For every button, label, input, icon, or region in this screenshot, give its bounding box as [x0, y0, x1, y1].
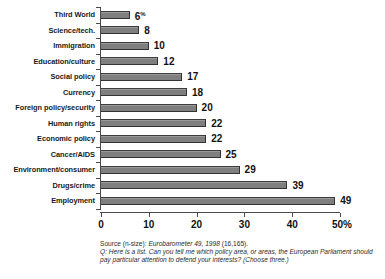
- bar: [101, 119, 206, 127]
- category-label: Employment: [0, 193, 95, 209]
- bar-row: Currency18: [0, 85, 385, 101]
- caption-source-title: Eurobarometer 49, 1998: [148, 240, 219, 247]
- category-label: Education/culture: [0, 54, 95, 70]
- caption-question-prefix: Q:: [100, 248, 109, 255]
- chart-caption: Source (n-size): Eurobarometer 49, 1998 …: [100, 240, 382, 265]
- y-axis-tick: [96, 23, 100, 24]
- bar-row: Education/culture12: [0, 54, 385, 70]
- y-axis-tick: [96, 209, 100, 210]
- bar-row: Cancer/AIDS25: [0, 147, 385, 163]
- value-label: 10: [154, 38, 165, 54]
- bar: [101, 166, 240, 174]
- x-axis-tick: [149, 213, 150, 217]
- value-label: 49: [340, 193, 351, 209]
- y-axis-tick: [96, 7, 100, 8]
- caption-question-line: Q: Here is a list. Can you tell me which…: [100, 248, 382, 264]
- bar: [101, 181, 287, 189]
- bar-row: Immigration10: [0, 38, 385, 54]
- percent-sign: %: [140, 11, 145, 17]
- category-label: Cancer/AIDS: [0, 147, 95, 163]
- y-axis-tick: [96, 38, 100, 39]
- bar-row: Human rights22: [0, 116, 385, 132]
- value-label: 39: [292, 178, 303, 194]
- bar: [101, 26, 139, 34]
- caption-source-prefix: Source (n-size):: [100, 240, 148, 247]
- category-label: Currency: [0, 85, 95, 101]
- category-label: Economic policy: [0, 131, 95, 147]
- y-axis-tick: [96, 69, 100, 70]
- bar-row: Economic policy22: [0, 131, 385, 147]
- value-label: 17: [187, 69, 198, 85]
- bar: [101, 150, 221, 158]
- value-label: 22: [211, 131, 222, 147]
- caption-question-text: Here is a list. Can you tell me which po…: [100, 248, 373, 263]
- bar-row: Foreign policy/security20: [0, 100, 385, 116]
- bar: [101, 104, 197, 112]
- bar: [101, 197, 335, 205]
- x-axis-tick-label: 10: [143, 219, 154, 230]
- y-axis-tick: [96, 162, 100, 163]
- bar: [101, 42, 149, 50]
- x-axis-tick: [292, 213, 293, 217]
- category-label: Immigration: [0, 38, 95, 54]
- x-axis-tick: [244, 213, 245, 217]
- value-label: 25: [226, 147, 237, 163]
- x-axis-tick: [340, 213, 341, 217]
- y-axis-tick: [96, 193, 100, 194]
- x-axis-tick-label: 20: [191, 219, 202, 230]
- y-axis-tick: [96, 54, 100, 55]
- plot-area: Third World6%Science/tech.8Immigration10…: [0, 7, 385, 212]
- y-axis-tick: [96, 85, 100, 86]
- y-axis-tick: [96, 116, 100, 117]
- value-label: 6%: [135, 7, 146, 23]
- bar: [101, 73, 182, 81]
- category-label: Social policy: [0, 69, 95, 85]
- category-label: Foreign policy/security: [0, 100, 95, 116]
- bar: [101, 11, 130, 19]
- bar: [101, 135, 206, 143]
- category-label: Science/tech.: [0, 23, 95, 39]
- bar: [101, 88, 187, 96]
- value-label: 29: [245, 162, 256, 178]
- bar: [101, 57, 158, 65]
- x-axis-tick: [197, 213, 198, 217]
- y-axis-tick: [96, 131, 100, 132]
- y-axis-tick: [96, 100, 100, 101]
- bar-row: Employment49: [0, 193, 385, 209]
- caption-source-suffix: (16,165).: [220, 240, 248, 247]
- y-axis-line: [100, 7, 101, 210]
- x-axis-tick: [101, 213, 102, 217]
- x-axis-tick-label: 30: [239, 219, 250, 230]
- y-axis-tick: [96, 147, 100, 148]
- category-label: Human rights: [0, 116, 95, 132]
- axis-percent-sign: %: [343, 219, 352, 230]
- x-axis-tick-label: 0: [98, 219, 104, 230]
- category-label: Drugs/crime: [0, 178, 95, 194]
- caption-source-line: Source (n-size): Eurobarometer 49, 1998 …: [100, 240, 382, 248]
- category-label: Environment/consumer: [0, 162, 95, 178]
- bar-row: Third World6%: [0, 7, 385, 23]
- value-label: 8: [144, 23, 150, 39]
- value-label: 22: [211, 116, 222, 132]
- x-axis-tick-label: 50%: [332, 219, 352, 230]
- x-axis-line: [100, 212, 340, 213]
- category-label: Third World: [0, 7, 95, 23]
- x-axis-tick-label: 40: [287, 219, 298, 230]
- y-axis-tick: [96, 178, 100, 179]
- bar-row: Social policy17: [0, 69, 385, 85]
- bar-row: Science/tech.8: [0, 23, 385, 39]
- value-label: 12: [163, 54, 174, 70]
- value-label: 20: [202, 100, 213, 116]
- bar-chart-figure: Third World6%Science/tech.8Immigration10…: [0, 0, 385, 279]
- bar-row: Environment/consumer29: [0, 162, 385, 178]
- value-label: 18: [192, 85, 203, 101]
- bar-row: Drugs/crime39: [0, 178, 385, 194]
